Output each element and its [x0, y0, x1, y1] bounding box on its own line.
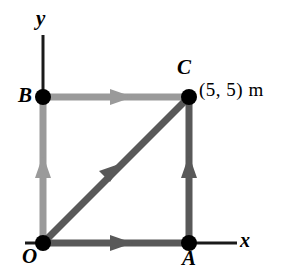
segment-b-to-c — [43, 89, 189, 105]
point-label-a: A — [182, 248, 196, 269]
point-marker-c — [181, 89, 197, 105]
segment-o-to-b-arrowhead — [35, 155, 51, 178]
segment-b-to-c-arrowhead — [110, 89, 133, 105]
segment-o-to-b — [35, 97, 51, 243]
segment-o-to-a — [43, 235, 189, 251]
x-axis-label: x — [240, 230, 250, 250]
segment-o-to-c-diagonal — [43, 97, 189, 243]
point-label-o: O — [22, 246, 37, 267]
vector-path-figure: y x O A C B (5, 5) m — [0, 0, 287, 275]
coordinate-annotation: (5, 5) m — [199, 80, 264, 99]
segment-o-to-a-arrowhead — [110, 235, 133, 251]
point-marker-b — [35, 89, 51, 105]
point-marker-o — [35, 235, 51, 251]
point-label-c: C — [177, 57, 191, 78]
segment-a-to-c — [181, 97, 197, 243]
segment-a-to-c-arrowhead — [181, 155, 197, 178]
point-label-b: B — [18, 85, 32, 106]
y-axis-label: y — [36, 8, 45, 29]
